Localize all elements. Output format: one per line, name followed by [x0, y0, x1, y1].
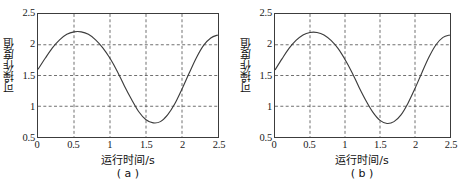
x-tick-label: 0.5 — [67, 139, 80, 151]
y-tick-labels-a: 2.5 2 1.5 1 0.5 — [14, 13, 35, 138]
x-tick-label: 1.5 — [374, 139, 387, 151]
x-tick-label: 2 — [413, 139, 418, 151]
x-tick-label: 0 — [271, 139, 276, 151]
gridlines-a — [38, 14, 218, 137]
y-tick-label: 2 — [267, 39, 272, 49]
plot-svg-b — [275, 14, 450, 137]
x-tick-label: 2.5 — [445, 139, 458, 151]
figure-two-panel-charts: 可操作度值 2.5 2 1.5 1 0.5 — [0, 0, 472, 184]
y-tick-label: 0.5 — [22, 133, 35, 143]
y-tick-label: 2.5 — [259, 8, 272, 18]
x-axis-title-b: 运行时间/s — [244, 151, 472, 167]
y-tick-label: 2 — [30, 39, 35, 49]
x-tick-label: 1.5 — [140, 139, 153, 151]
data-curve-b — [275, 32, 450, 123]
plot-svg-a — [38, 14, 218, 137]
panel-caption-a: ( a ) — [10, 167, 246, 180]
y-tick-label: 0.5 — [259, 133, 272, 143]
plot-area-b — [274, 13, 451, 138]
y-tick-label: 1 — [267, 102, 272, 112]
x-tick-label: 0.5 — [303, 139, 316, 151]
y-tick-label: 1 — [30, 102, 35, 112]
y-tick-label: 1.5 — [259, 71, 272, 81]
gridlines-b — [275, 14, 450, 137]
chart-panel-a: 可操作度值 2.5 2 1.5 1 0.5 — [0, 0, 236, 184]
x-tick-label: 1 — [107, 139, 112, 151]
x-tick-label: 0 — [34, 139, 39, 151]
x-tick-label: 2 — [180, 139, 185, 151]
y-tick-label: 2.5 — [22, 8, 35, 18]
x-tick-label: 2.5 — [213, 139, 226, 151]
y-tick-labels-b: 2.5 2 1.5 1 0.5 — [251, 13, 272, 138]
panel-caption-b: ( b ) — [244, 167, 472, 180]
x-axis-title-a: 运行时间/s — [10, 151, 246, 167]
data-curve-a — [38, 32, 218, 123]
plot-area-a — [37, 13, 219, 138]
y-tick-label: 1.5 — [22, 71, 35, 81]
chart-panel-b: 可操作度值 2.5 2 1.5 1 0.5 — [236, 0, 472, 184]
x-tick-label: 1 — [342, 139, 347, 151]
